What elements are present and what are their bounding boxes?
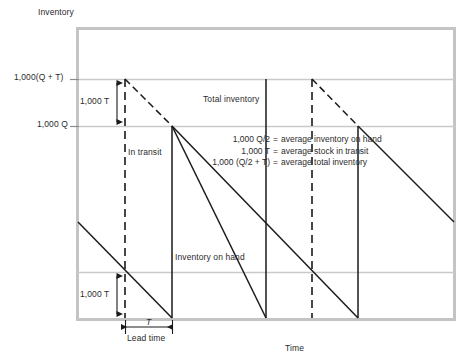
- legend-expression: 1,000 (Q/2 + T): [196, 157, 270, 169]
- y-tick-label-1000QT: 1,000(Q + T): [14, 73, 63, 83]
- dimension-label-top: 1,000 T: [80, 97, 109, 107]
- legend: 1,000 Q/2=average inventory on hand 1,00…: [196, 134, 382, 169]
- y-axis-title: Inventory: [38, 8, 74, 18]
- legend-description: average total inventory: [281, 157, 367, 167]
- legend-equals: =: [270, 134, 281, 144]
- annotation-in-transit: In transit: [128, 148, 162, 158]
- annotation-lead-time: Lead time: [127, 334, 165, 344]
- legend-description: average inventory on hand: [281, 134, 382, 144]
- legend-row: 1,000 Q/2=average inventory on hand: [196, 134, 382, 146]
- legend-equals: =: [270, 157, 281, 167]
- x-axis-title: Time: [285, 344, 304, 354]
- dimension-label-lead-time: T: [146, 318, 151, 328]
- legend-row: 1,000 T=average stock in transit: [196, 146, 382, 158]
- chart-canvas: [0, 0, 475, 363]
- legend-equals: =: [270, 146, 281, 156]
- legend-expression: 1,000 Q/2: [196, 134, 270, 146]
- annotation-total-inventory: Total inventory: [203, 95, 259, 105]
- annotation-inventory-on-hand: Inventory on hand: [175, 253, 245, 263]
- dimension-label-bottom: 1,000 T: [80, 290, 109, 300]
- legend-expression: 1,000 T: [196, 146, 270, 158]
- y-tick-label-1000Q: 1,000 Q: [37, 120, 68, 130]
- legend-description: average stock in transit: [281, 146, 368, 156]
- legend-row: 1,000 (Q/2 + T)=average total inventory: [196, 157, 382, 169]
- inventory-chart-figure: Inventory Time 1,000(Q + T) 1,000 Q Tota…: [0, 0, 475, 363]
